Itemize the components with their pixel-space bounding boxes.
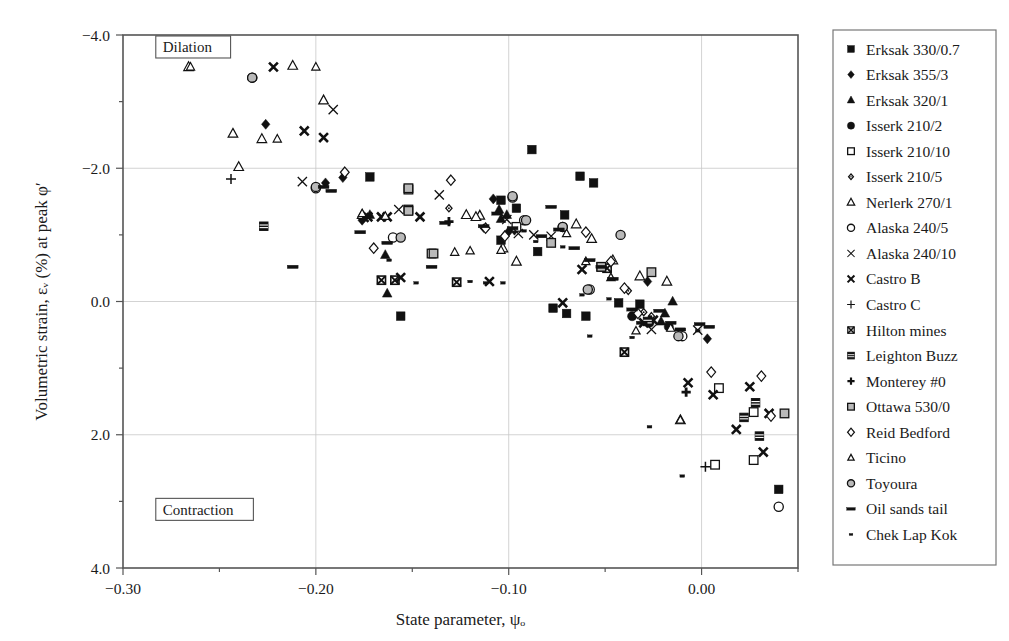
legend-item-label: Isserk 210/5 (866, 168, 942, 185)
data-point (749, 456, 758, 465)
data-point (312, 63, 320, 71)
data-point (502, 210, 512, 219)
x-axis-label: State parameter, ψₒ (396, 610, 526, 629)
x-tick-label: −0.20 (298, 580, 334, 597)
data-point (732, 425, 741, 434)
legend-marker-open-square-icon (848, 148, 855, 155)
data-point (757, 371, 766, 381)
data-point (607, 298, 612, 301)
data-point (553, 228, 564, 231)
y-tick-label: 0.0 (91, 293, 111, 310)
data-point (404, 184, 413, 193)
legend-marker-dot-small-icon (849, 533, 853, 535)
data-point (528, 145, 537, 154)
x-tick-label: −0.30 (105, 580, 141, 597)
series-11 (377, 263, 628, 356)
data-point (468, 280, 473, 283)
data-point (780, 409, 789, 418)
legend-item-19[interactable]: Chek Lap Kok (849, 526, 957, 543)
data-point (569, 247, 580, 250)
data-point (273, 135, 281, 143)
data-point (580, 294, 585, 297)
data-point (497, 196, 506, 205)
data-point (703, 334, 711, 344)
data-point (584, 259, 595, 262)
data-point (387, 259, 392, 262)
data-point (583, 285, 592, 294)
data-point (647, 425, 652, 428)
data-point (382, 241, 393, 244)
y-tick-label: −2.0 (82, 160, 110, 177)
data-point (582, 312, 591, 321)
data-point (440, 221, 451, 224)
series-9 (269, 63, 773, 457)
data-point (429, 249, 438, 258)
data-point (635, 271, 645, 280)
data-point (355, 231, 366, 234)
data-point (707, 367, 716, 377)
data-point (396, 312, 405, 321)
data-point (774, 502, 783, 511)
data-point (751, 399, 759, 407)
y-tick-label: 4.0 (91, 560, 111, 577)
annotations: DilationContraction (156, 36, 254, 520)
data-point (571, 219, 581, 228)
data-point (446, 175, 455, 185)
data-point (654, 309, 665, 312)
series-7 (248, 73, 784, 511)
data-point (226, 174, 236, 184)
data-point (547, 239, 556, 248)
data-point (636, 321, 647, 324)
legend-item-label: Nerlerk 270/1 (866, 194, 953, 211)
data-point (260, 222, 268, 230)
data-point (680, 475, 685, 478)
legend-item-label: Erksak 330/0.7 (866, 41, 960, 58)
legend-marker-open-circle-icon (847, 224, 854, 231)
series-16 (186, 63, 684, 424)
data-point (288, 60, 298, 69)
legend-item-label: Ticino (866, 449, 906, 466)
data-point (589, 179, 598, 188)
data-point (709, 390, 718, 399)
data-point (453, 278, 461, 286)
data-point (451, 248, 459, 256)
data-point (300, 127, 309, 136)
legend-item-label: Isserk 210/10 (866, 143, 950, 160)
data-point (558, 298, 567, 307)
data-point (318, 185, 329, 188)
data-point (483, 282, 488, 285)
x-tick-label: 0.00 (688, 580, 715, 597)
annotation-label: Dilation (163, 39, 213, 55)
data-point (533, 247, 542, 256)
data-point (536, 235, 547, 238)
legend-item-label: Alaska 240/5 (866, 219, 948, 236)
legend-item-label: Isserk 210/2 (866, 117, 942, 134)
y-tick-label: −4.0 (82, 27, 110, 44)
data-point (576, 172, 585, 181)
data-point (396, 233, 405, 242)
legend-marker-filled-circle-icon (847, 122, 854, 129)
data-point (377, 276, 385, 284)
legend-item-label: Erksak 320/1 (866, 92, 948, 109)
data-point (329, 105, 338, 114)
data-point (616, 230, 625, 239)
legend-item-label: Alaska 240/10 (866, 245, 956, 262)
data-point (298, 177, 307, 186)
data-point (435, 190, 444, 199)
data-point (632, 326, 640, 334)
data-point (466, 246, 474, 254)
data-point (257, 134, 267, 143)
data-point (416, 212, 425, 221)
legend-item-label: Leighton Buzz (866, 347, 958, 364)
data-point (665, 321, 676, 324)
data-point (507, 227, 518, 230)
data-point (607, 277, 618, 280)
data-point (319, 133, 328, 142)
data-points-layer (184, 60, 789, 511)
data-point (394, 205, 403, 214)
legend-marker-grey-square-icon (848, 403, 855, 410)
legend-item-label: Toyoura (866, 475, 918, 492)
data-point (674, 332, 683, 341)
legend-marker-dash-bold-icon (847, 508, 855, 510)
data-point (319, 95, 329, 104)
